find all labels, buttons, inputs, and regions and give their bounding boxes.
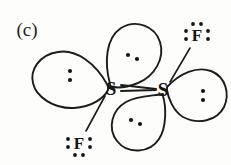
lone-pair-dot <box>206 29 210 33</box>
orbital-lobe-right <box>167 69 227 121</box>
lone-pair-dot <box>88 137 92 141</box>
lone-pair-dot <box>126 53 130 57</box>
lone-pair-dot <box>184 37 188 41</box>
lone-pair-dot <box>184 29 188 33</box>
lone-pair-dot <box>66 145 70 149</box>
bond-s-s-double <box>121 85 156 91</box>
lewis-structure-diagram: S S F F (c) <box>0 0 231 165</box>
lone-pair-dot <box>201 89 205 93</box>
lone-pair-dot <box>206 37 210 41</box>
lone-pair-dot <box>68 78 72 82</box>
lone-pair-dot <box>135 57 139 61</box>
lone-pair-dot <box>68 69 72 73</box>
lone-pair-dot <box>66 137 70 141</box>
lobe-right-outline <box>167 69 227 121</box>
atom-label-sulfur-left: S <box>106 78 117 99</box>
lone-pair-dot <box>201 98 205 102</box>
orbital-lobe-left <box>32 52 108 108</box>
lone-pair-dot <box>81 153 85 157</box>
lone-pair-dot <box>129 118 133 122</box>
chemistry-figure-container: S S F F (c) <box>0 0 231 165</box>
lobe-bottom-outline <box>112 94 165 151</box>
atom-label-sulfur-right: S <box>158 79 169 100</box>
lone-pair-dot <box>88 145 92 149</box>
lone-pair-dot <box>191 22 195 26</box>
orbital-lobe-bottom <box>112 94 165 151</box>
panel-label: (c) <box>16 19 37 41</box>
lone-pair-dot <box>138 122 142 126</box>
lone-pair-dot <box>73 153 77 157</box>
atom-label-fluorine-bottom-left: F <box>74 134 84 153</box>
bond-s-s-line-lower <box>121 90 156 91</box>
lone-pair-dot <box>199 22 203 26</box>
atom-label-fluorine-top-right: F <box>192 26 202 45</box>
